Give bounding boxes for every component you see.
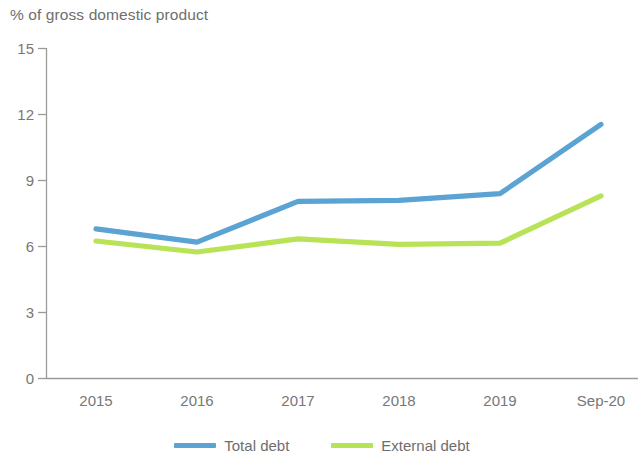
y-tick-label: 0 (0, 370, 34, 387)
legend-swatch-icon (331, 443, 373, 448)
series-lines (96, 124, 601, 252)
x-tick-label: 2019 (483, 392, 516, 409)
x-tick-label: 2018 (382, 392, 415, 409)
plot-area (0, 0, 644, 459)
x-tick-label: 2016 (180, 392, 213, 409)
axis-lines (46, 48, 638, 379)
series-line-external-debt (96, 196, 601, 252)
legend-label: Total debt (224, 437, 289, 454)
x-tick-label: Sep-20 (577, 392, 625, 409)
y-tick-label: 3 (0, 304, 34, 321)
legend-label: External debt (381, 437, 469, 454)
series-line-total-debt (96, 124, 601, 242)
y-tick-label: 15 (0, 40, 34, 57)
y-tick-label: 9 (0, 172, 34, 189)
y-axis-ticks (38, 49, 46, 379)
y-tick-label: 6 (0, 238, 34, 255)
legend-entry-external-debt: External debt (331, 437, 469, 454)
x-tick-label: 2017 (281, 392, 314, 409)
legend-swatch-icon (174, 443, 216, 448)
chart-legend: Total debt External debt (0, 437, 644, 454)
y-tick-label: 12 (0, 106, 34, 123)
legend-entry-total-debt: Total debt (174, 437, 289, 454)
x-tick-label: 2015 (79, 392, 112, 409)
line-chart: % of gross domestic product 15 12 9 6 3 … (0, 0, 644, 459)
